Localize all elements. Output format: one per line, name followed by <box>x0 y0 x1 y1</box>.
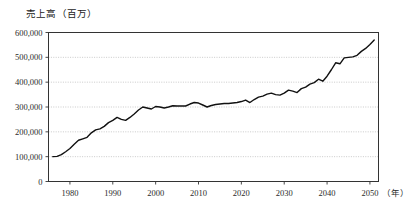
y-axis-tick-label: 500,000 <box>15 52 43 62</box>
y-axis-tick-label: 400,000 <box>15 77 43 87</box>
x-axis-tick-label: 2030 <box>276 188 293 198</box>
y-axis-tick-label: 0 <box>38 177 42 187</box>
x-axis-tick-label: 2010 <box>190 188 207 198</box>
x-axis-tick-label: 2020 <box>233 188 250 198</box>
x-axis-tick-label: 2000 <box>147 188 164 198</box>
x-axis-tick-label: 1980 <box>61 188 78 198</box>
sales-data-line <box>53 40 374 157</box>
chart-canvas: 0100,000200,000300,000400,000500,000600,… <box>0 0 409 211</box>
x-axis-tick-label: 2040 <box>319 188 336 198</box>
plot-area-border <box>49 33 379 182</box>
sales-line-chart: 売上高（百万） 0100,000200,000300,000400,000500… <box>0 0 409 211</box>
x-axis-unit-label: （年） <box>382 188 409 198</box>
y-axis-ticks-group: 0100,000200,000300,000400,000500,000600,… <box>15 28 49 187</box>
x-axis-tick-label: 2050 <box>361 188 378 198</box>
y-axis-tick-label: 100,000 <box>15 152 43 162</box>
y-axis-tick-label: 200,000 <box>15 127 43 137</box>
x-axis-ticks-group: 19801990200020102020203020402050 <box>61 182 378 198</box>
y-axis-tick-label: 600,000 <box>15 28 43 38</box>
x-axis-tick-label: 1990 <box>104 188 121 198</box>
y-axis-tick-label: 300,000 <box>15 102 43 112</box>
